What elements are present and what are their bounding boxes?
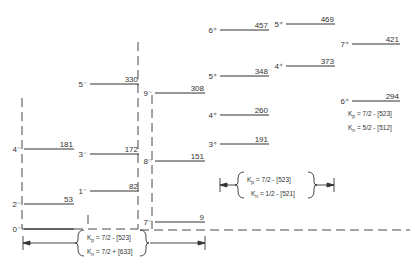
config3-kp-label: Kp = 7/2 - [523] <box>348 110 392 119</box>
spin-parity-label: 3⁺ <box>209 140 217 149</box>
brace-right-1-icon <box>140 230 149 256</box>
energy-level: 9⁻308 <box>144 84 205 98</box>
spin-parity-label: 3⁻ <box>79 150 87 159</box>
level-scheme-diagram: 0⁻2⁻534⁻1811⁻823⁻1725⁻3307⁻98⁻1519⁻3083⁺… <box>0 0 415 272</box>
brace-left-2-icon <box>235 172 244 198</box>
energy-label: 191 <box>255 135 269 144</box>
spin-parity-label: 7⁺ <box>341 40 349 49</box>
config3-kn-label: Kn = 5/2 - [512] <box>348 124 392 133</box>
band-5minus: 1⁻823⁻1725⁻330 <box>79 75 139 196</box>
range1-left-arrowhead-icon <box>23 241 30 245</box>
energy-level: 5⁺469 <box>275 15 335 29</box>
energy-level: 3⁻172 <box>79 145 139 159</box>
energy-label: 294 <box>386 92 400 101</box>
band-6plus: 6⁺2947⁺421 <box>341 35 400 106</box>
energy-level: 7⁻9 <box>144 213 205 227</box>
config1-kn-label: Kn = 7/2 + [633] <box>87 248 133 257</box>
band-3plus: 3⁺1914⁺2605⁺3486⁺457 <box>209 21 269 149</box>
spin-parity-label: 5⁺ <box>275 20 283 29</box>
spin-parity-label: 1⁻ <box>79 187 87 196</box>
energy-label: 308 <box>191 84 205 93</box>
energy-levels: 0⁻2⁻534⁻1811⁻823⁻1725⁻3307⁻98⁻1519⁻3083⁺… <box>13 15 400 234</box>
energy-level: 1⁻82 <box>79 182 139 196</box>
spin-parity-label: 4⁺ <box>209 111 217 120</box>
spin-parity-label: 5⁺ <box>209 72 217 81</box>
energy-label: 348 <box>255 67 269 76</box>
config2-kn-label: Kn = 1/2 - [521] <box>251 190 295 199</box>
band-7minus: 7⁻98⁻1519⁻308 <box>144 84 205 227</box>
spin-parity-label: 5⁻ <box>79 80 87 89</box>
level-scheme-svg: 0⁻2⁻534⁻1811⁻823⁻1725⁻3307⁻98⁻1519⁻3083⁺… <box>0 0 415 272</box>
energy-label: 457 <box>255 21 269 30</box>
spin-parity-label: 9⁻ <box>144 89 152 98</box>
energy-level: 5⁻330 <box>79 75 139 89</box>
energy-label: 172 <box>125 145 139 154</box>
band-4plus: 4⁺3735⁺469 <box>275 15 335 71</box>
energy-label: 469 <box>321 15 335 24</box>
range1-right-arrowhead-icon <box>198 241 205 245</box>
energy-label: 181 <box>60 140 74 149</box>
spin-parity-label: 4⁻ <box>13 145 21 154</box>
energy-label: 82 <box>129 182 138 191</box>
energy-level: 6⁺457 <box>209 21 269 35</box>
brace-right-2-icon <box>308 172 317 198</box>
energy-label: 53 <box>64 195 73 204</box>
spin-parity-label: 4⁺ <box>275 62 283 71</box>
energy-level: 5⁺348 <box>209 67 269 81</box>
energy-level: 3⁺191 <box>209 135 269 149</box>
range2-left-arrowhead-icon <box>220 183 227 187</box>
brace-left-1-icon <box>75 230 84 256</box>
energy-level: 7⁺421 <box>341 35 400 49</box>
group-boundaries <box>22 42 410 230</box>
spin-parity-label: 0⁻ <box>13 225 21 234</box>
energy-label: 260 <box>255 106 269 115</box>
energy-level: 4⁺373 <box>275 57 335 71</box>
range2-right-arrowhead-icon <box>327 183 334 187</box>
config1-kp-label: Kp = 7/2 - [523] <box>87 234 131 243</box>
energy-label: 9 <box>200 213 205 222</box>
spin-parity-label: 6⁺ <box>209 26 217 35</box>
energy-level: 4⁺260 <box>209 106 269 120</box>
energy-label: 373 <box>321 57 335 66</box>
spin-parity-label: 8⁻ <box>144 157 152 166</box>
spin-parity-label: 7⁻ <box>144 218 152 227</box>
energy-label: 421 <box>386 35 400 44</box>
energy-level: 6⁺294 <box>341 92 400 106</box>
spin-parity-label: 2⁻ <box>13 200 21 209</box>
spin-parity-label: 6⁺ <box>341 97 349 106</box>
energy-label: 330 <box>125 75 139 84</box>
energy-level: 8⁻151 <box>144 152 205 166</box>
energy-label: 151 <box>191 152 205 161</box>
config2-kp-label: Kp = 7/2 - [523] <box>247 176 291 185</box>
